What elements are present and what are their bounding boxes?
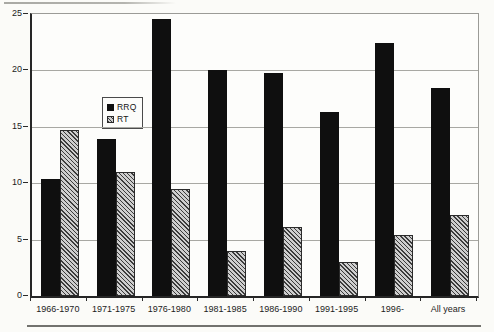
legend: RRQ RT <box>102 97 143 129</box>
y-axis-label-5: 5 <box>2 234 22 245</box>
bar-rrq-all-years <box>431 88 450 296</box>
bar-rt-1971-1975 <box>116 172 135 296</box>
x-axis-label-1991-1995: 1991-1995 <box>309 304 365 315</box>
bar-rt-1996- <box>394 235 413 296</box>
legend-item-rrq: RRQ <box>107 101 137 113</box>
bar-rt-all-years <box>450 215 469 296</box>
x-axis-label-1976-1980: 1976-1980 <box>142 304 198 315</box>
x-tick-2 <box>142 297 143 301</box>
x-tick-6 <box>365 297 366 301</box>
gridline-15 <box>32 127 478 128</box>
bar-rrq-1991-1995 <box>320 112 339 296</box>
bar-rrq-1976-1980 <box>152 19 171 296</box>
y-tick-10 <box>23 182 28 183</box>
legend-item-rt: RT <box>107 113 137 125</box>
bar-rt-1986-1990 <box>283 227 302 296</box>
x-tick-7 <box>420 297 421 301</box>
y-tick-20 <box>23 69 28 70</box>
rrq-swatch-icon <box>107 104 114 111</box>
bar-rt-1966-1970 <box>60 130 79 296</box>
y-axis-label-20: 20 <box>2 64 22 75</box>
top-rule <box>4 2 176 4</box>
legend-label-rt: RT <box>117 114 129 124</box>
bar-rrq-1981-1985 <box>208 70 227 296</box>
rt-swatch-icon <box>107 116 114 123</box>
x-axis-label-1981-1985: 1981-1985 <box>197 304 253 315</box>
legend-label-rrq: RRQ <box>117 102 137 112</box>
y-tick-25 <box>23 13 28 14</box>
bar-rt-1991-1995 <box>339 262 358 296</box>
x-tick-0 <box>30 297 31 301</box>
x-axis-label-1971-1975: 1971-1975 <box>86 304 142 315</box>
y-axis-label-15: 15 <box>2 121 22 132</box>
y-tick-5 <box>23 239 28 240</box>
y-axis-label-0: 0 <box>2 290 22 301</box>
x-tick-5 <box>309 297 310 301</box>
figure: RRQ RT 0510152025 1966-19701971-19751976… <box>0 0 494 332</box>
x-axis-label-all-years: All years <box>420 304 476 315</box>
bar-rt-1976-1980 <box>171 189 190 296</box>
x-axis-label-1996-: 1996- <box>365 304 421 315</box>
x-tick-8 <box>476 297 477 301</box>
x-axis-label-1966-1970: 1966-1970 <box>30 304 86 315</box>
x-tick-3 <box>197 297 198 301</box>
gridline-20 <box>32 70 478 71</box>
y-axis-label-10: 10 <box>2 177 22 188</box>
plot-area: RRQ RT <box>30 13 479 298</box>
y-tick-0 <box>23 295 28 296</box>
bar-rrq-1966-1970 <box>41 179 60 296</box>
bar-rrq-1986-1990 <box>264 73 283 296</box>
x-tick-4 <box>253 297 254 301</box>
bottom-rule <box>27 325 481 327</box>
x-axis-label-1986-1990: 1986-1990 <box>253 304 309 315</box>
y-tick-15 <box>23 126 28 127</box>
bar-rt-1981-1985 <box>227 251 246 296</box>
y-axis-label-25: 25 <box>2 8 22 19</box>
bar-rrq-1996- <box>375 43 394 296</box>
x-tick-1 <box>86 297 87 301</box>
bar-rrq-1971-1975 <box>97 139 116 296</box>
